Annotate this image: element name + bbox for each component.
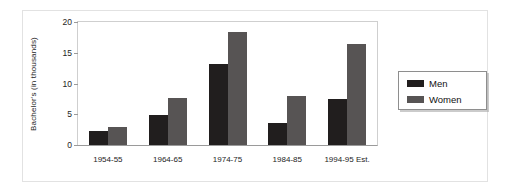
chart-figure: Bachelor's (in thousands) 05101520 1954-… bbox=[0, 0, 519, 195]
y-tick-label: 15 bbox=[63, 48, 72, 58]
legend-item-women: Women bbox=[407, 92, 462, 106]
bar-men-1954-55 bbox=[89, 131, 108, 145]
bar-men-1984-85 bbox=[268, 123, 287, 145]
x-tick-label: 1984-85 bbox=[273, 155, 302, 164]
bar-group bbox=[89, 22, 127, 145]
bar-women-1954-55 bbox=[108, 127, 127, 145]
bar-women-1984-85 bbox=[287, 96, 306, 145]
y-tick-label: 20 bbox=[63, 17, 72, 27]
bar-group bbox=[209, 22, 247, 145]
x-tick-label: 1974-75 bbox=[213, 155, 242, 164]
y-tick-label: 10 bbox=[63, 79, 72, 89]
y-tick-label: 0 bbox=[67, 140, 72, 150]
y-tick-mark bbox=[74, 145, 78, 146]
bar-men-1964-65 bbox=[149, 115, 168, 145]
bars-layer bbox=[78, 22, 377, 145]
bar-men-1994-95-est- bbox=[328, 99, 347, 145]
legend-item-men: Men bbox=[407, 76, 447, 90]
bar-men-1974-75 bbox=[209, 64, 228, 145]
legend-label-women: Women bbox=[429, 94, 462, 105]
y-axis-title: Bachelor's (in thousands) bbox=[26, 22, 40, 146]
x-tick-label: 1994-95 Est. bbox=[324, 155, 369, 164]
legend-label-men: Men bbox=[429, 78, 447, 89]
chart-legend: Men Women bbox=[398, 71, 487, 110]
plot-area: 05101520 1954-551964-651974-751984-85199… bbox=[77, 21, 378, 146]
bar-group bbox=[149, 22, 187, 145]
x-tick-label: 1964-65 bbox=[153, 155, 182, 164]
legend-swatch-men-icon bbox=[407, 80, 424, 87]
y-tick-label: 5 bbox=[67, 109, 72, 119]
legend-swatch-women-icon bbox=[407, 96, 424, 103]
bar-women-1964-65 bbox=[168, 98, 187, 145]
bar-women-1994-95-est- bbox=[347, 44, 366, 145]
bar-group bbox=[328, 22, 366, 145]
bar-group bbox=[268, 22, 306, 145]
x-tick-label: 1954-55 bbox=[93, 155, 122, 164]
bar-women-1974-75 bbox=[228, 32, 247, 145]
y-axis-title-text: Bachelor's (in thousands) bbox=[29, 37, 38, 131]
